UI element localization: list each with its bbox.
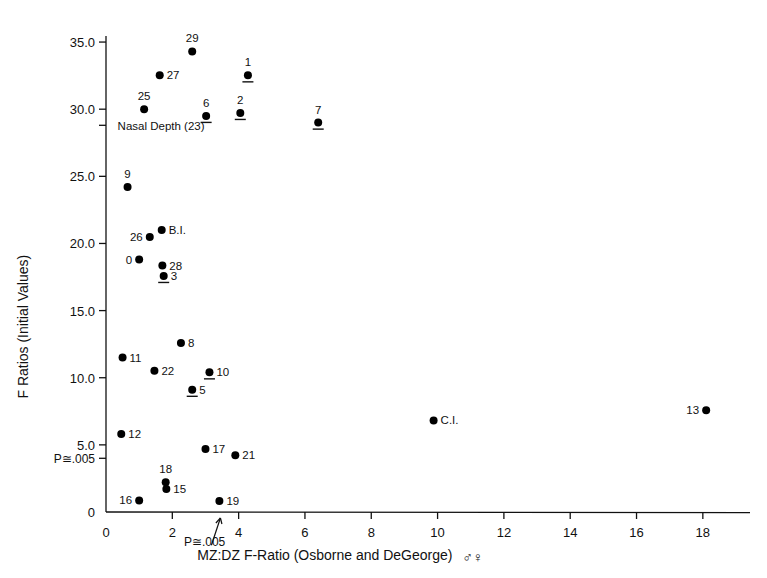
data-point-label: 21 (242, 449, 255, 461)
x-tick-label: 14 (563, 525, 577, 540)
y-tick-label: 20.0 (70, 236, 95, 251)
data-point[interactable]: 6 (201, 97, 212, 123)
data-point[interactable]: 1 (242, 56, 253, 82)
data-point-label: 27 (167, 69, 180, 81)
data-point[interactable]: 7 (313, 104, 324, 130)
y-tick-label: 0 (88, 505, 95, 520)
data-point-marker[interactable] (156, 71, 164, 79)
x-tick-label: 2 (169, 525, 176, 540)
x-tick-label: 16 (629, 525, 643, 540)
data-point-label: 7 (315, 104, 321, 116)
data-point[interactable]: 12 (117, 428, 141, 440)
data-point-label: C.I. (441, 414, 459, 426)
data-point[interactable]: 2 (235, 94, 246, 120)
data-point[interactable]: 16 (119, 494, 143, 506)
data-point-marker[interactable] (117, 430, 125, 438)
data-point-label: 1 (245, 56, 251, 68)
x-tick-label: 12 (497, 525, 511, 540)
data-point-marker[interactable] (177, 339, 185, 347)
data-point-marker[interactable] (188, 386, 196, 394)
y-tick-label: 5.0 (77, 438, 95, 453)
data-point[interactable]: 5 (187, 384, 206, 397)
data-point-marker[interactable] (124, 183, 132, 191)
x-tick-label: 6 (301, 525, 308, 540)
data-point[interactable]: 9 (124, 168, 132, 191)
y-tick-label: 25.0 (70, 169, 95, 184)
data-point-marker[interactable] (188, 47, 196, 55)
data-point-label: 9 (124, 168, 130, 180)
data-point-label: 8 (188, 337, 194, 349)
data-point-label: 17 (212, 443, 225, 455)
data-point[interactable]: 22 (150, 365, 174, 377)
data-point-marker[interactable] (158, 262, 166, 270)
x-axis-line (106, 512, 750, 513)
data-point-label: 13 (686, 404, 699, 416)
data-point-marker[interactable] (201, 445, 209, 453)
y-tick-label: 10.0 (70, 371, 95, 386)
data-point-marker[interactable] (215, 497, 223, 505)
data-point[interactable]: 21 (231, 449, 255, 461)
data-point-marker[interactable] (160, 272, 168, 280)
data-point[interactable]: 29 (186, 32, 199, 55)
y-tick-label: 30.0 (70, 102, 95, 117)
data-point-marker[interactable] (205, 368, 213, 376)
data-point-marker[interactable] (231, 451, 239, 459)
data-point[interactable]: 3 (158, 270, 177, 283)
data-point-label: 19 (226, 495, 239, 507)
data-point[interactable]: 11 (119, 352, 142, 364)
y-tick-label: 15.0 (70, 304, 95, 319)
y-tick-label: 35.0 (70, 35, 95, 50)
data-point-marker[interactable] (158, 226, 166, 234)
data-point-label: 29 (186, 32, 199, 44)
data-point-label: 18 (159, 463, 172, 475)
scatter-figure: 05.010.015.020.025.030.035.0P≅.005024681… (0, 0, 767, 578)
data-point[interactable]: 18 (159, 463, 172, 486)
x-tick-label: 18 (696, 525, 710, 540)
data-point-marker[interactable] (135, 496, 143, 504)
data-point-marker[interactable] (162, 485, 170, 493)
data-point[interactable]: 8 (177, 337, 194, 349)
data-point-label: 2 (237, 94, 243, 106)
data-point-marker[interactable] (140, 105, 148, 113)
data-point[interactable]: 0 (126, 254, 143, 266)
data-point-marker[interactable] (146, 233, 154, 241)
x-axis-title-sex-symbols: ♂♀ (462, 549, 483, 565)
data-point-label: 25 (138, 90, 151, 102)
data-point-marker[interactable] (135, 256, 143, 264)
data-point[interactable]: B.I. (158, 224, 186, 236)
data-point-marker[interactable] (150, 367, 158, 375)
x-axis-title: MZ:DZ F-Ratio (Osborne and DeGeorge) (197, 547, 452, 563)
data-point-label: 22 (161, 365, 174, 377)
x-tick-label: 4 (235, 525, 242, 540)
data-point-marker[interactable] (314, 119, 322, 127)
x-tick-label: 8 (368, 525, 375, 540)
x-tick-label: 0 (102, 525, 109, 540)
data-point-marker[interactable] (202, 112, 210, 120)
data-point[interactable]: 13 (686, 404, 710, 416)
data-point-marker[interactable] (119, 354, 127, 362)
data-point-label: 5 (199, 384, 205, 396)
data-point[interactable]: 17 (201, 443, 225, 455)
data-point-marker[interactable] (244, 71, 252, 79)
data-point-label: B.I. (169, 224, 186, 236)
y-pvalue-tick-label: P≅.005 (54, 452, 96, 466)
data-point-label: 10 (216, 366, 229, 378)
data-point[interactable]: 25 (138, 90, 151, 113)
x-pvalue-arrowhead2-icon (220, 518, 222, 524)
data-point-marker[interactable] (236, 109, 244, 117)
data-point[interactable]: 27 (156, 69, 180, 81)
data-point-label: 16 (119, 494, 132, 506)
x-pvalue-annotation: P≅.005 (184, 535, 226, 549)
y-axis-title: F Ratios (Initial Values) (15, 255, 31, 399)
data-point-marker[interactable] (702, 406, 710, 414)
data-point-label: 6 (203, 97, 209, 109)
data-point[interactable]: 19 (215, 495, 239, 507)
data-point[interactable]: 10 (204, 366, 229, 379)
x-tick-label: 10 (430, 525, 444, 540)
nasal-depth-annotation: Nasal Depth (23) (118, 120, 205, 132)
data-point[interactable]: 26 (130, 231, 154, 243)
scatter-plot-canvas: 05.010.015.020.025.030.035.0P≅.005024681… (0, 0, 767, 578)
data-point-label: 12 (128, 428, 141, 440)
data-point-marker[interactable] (430, 416, 438, 424)
data-point[interactable]: C.I. (430, 414, 459, 426)
